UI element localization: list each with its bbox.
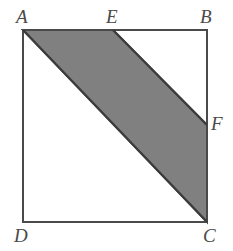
vertex-label-b: B xyxy=(200,7,212,26)
geometry-figure: A E B F D C xyxy=(0,0,233,251)
vertex-label-f: F xyxy=(211,114,223,133)
vertex-label-d: D xyxy=(14,226,28,245)
vertex-label-a: A xyxy=(16,7,28,26)
geometry-canvas xyxy=(0,0,233,251)
vertex-label-e: E xyxy=(106,7,118,26)
vertex-label-c: C xyxy=(203,226,216,245)
